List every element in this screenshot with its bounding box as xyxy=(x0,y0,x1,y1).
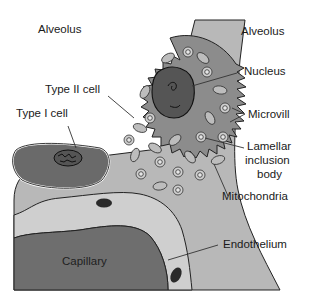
label-lamellar-2: inclusion xyxy=(245,154,290,166)
label-microvilli: Microvill xyxy=(248,108,290,120)
type2-nucleus xyxy=(152,67,194,118)
alveolar-diagram: Alveolus Alveolus Type II cell Type I ce… xyxy=(0,0,309,307)
label-alveolus-right: Alveolus xyxy=(241,25,285,37)
type1-cell xyxy=(13,143,110,188)
label-nucleus: Nucleus xyxy=(244,65,286,77)
label-mitochondria: Mitochondria xyxy=(222,190,288,202)
label-lamellar-3: body xyxy=(257,168,282,180)
label-lamellar-1: Lamellar xyxy=(247,140,291,152)
label-capillary: Capillary xyxy=(62,255,107,267)
label-type1-cell: Type I cell xyxy=(16,107,68,119)
label-type2-cell: Type II cell xyxy=(45,83,100,95)
leader-type2 xyxy=(108,96,134,118)
label-endothelium: Endothelium xyxy=(223,238,287,250)
endothelial-nucleus-1 xyxy=(96,199,112,208)
type1-nucleus xyxy=(54,150,82,166)
label-alveolus-left: Alveolus xyxy=(38,23,82,35)
